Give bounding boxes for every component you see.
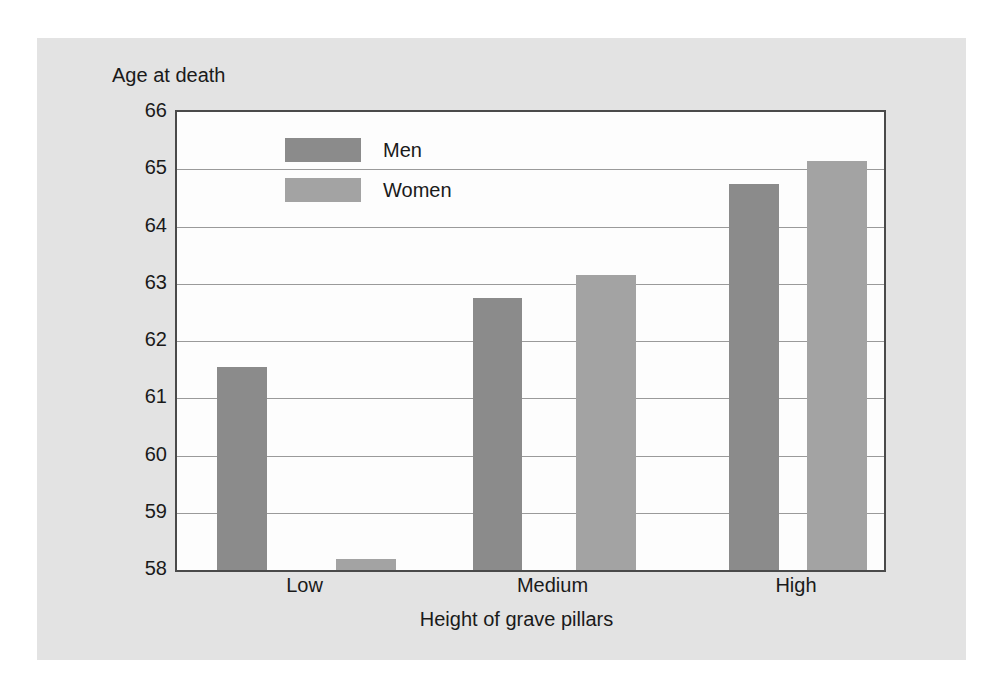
x-axis-title-text: Height of grave pillars: [420, 608, 613, 630]
y-axis-tick-label: 59: [127, 499, 167, 522]
x-axis-tick-labels: LowMediumHigh: [175, 574, 886, 604]
y-axis-tick-label: 62: [127, 328, 167, 351]
x-axis-tick-label-low: Low: [286, 574, 323, 597]
bar-women-high: [807, 161, 867, 570]
legend-item-men: Men: [285, 130, 452, 170]
y-axis-tick-label: 58: [127, 557, 167, 580]
bar-men-low: [217, 367, 267, 570]
y-axis-tick-label: 61: [127, 385, 167, 408]
legend-swatch-women: [285, 178, 361, 202]
legend-label-men: Men: [383, 139, 422, 162]
y-axis-title: Age at death: [112, 64, 225, 87]
legend-label-women: Women: [383, 179, 452, 202]
chart-legend: Men Women: [285, 130, 452, 210]
chart-figure: Age at death 666564636261605958 Men Wome…: [37, 38, 966, 660]
legend-item-women: Women: [285, 170, 452, 210]
y-axis-tick-label: 60: [127, 442, 167, 465]
bar-men-medium: [473, 298, 522, 570]
y-axis-tick-label: 65: [127, 156, 167, 179]
y-axis-tick-label: 63: [127, 270, 167, 293]
bar-women-low: [336, 559, 396, 570]
gridline: [177, 169, 884, 170]
y-axis-tick-label: 64: [127, 213, 167, 236]
x-axis-tick-label-high: High: [775, 574, 816, 597]
legend-swatch-men: [285, 138, 361, 162]
y-axis-tick-label: 66: [127, 99, 167, 122]
bar-men-high: [729, 184, 779, 570]
x-axis-title: Height of grave pillars: [37, 608, 966, 631]
bar-women-medium: [576, 275, 636, 570]
y-axis-tick-labels: 666564636261605958: [115, 110, 167, 568]
plot-area: Men Women: [175, 110, 886, 572]
x-axis-tick-label-medium: Medium: [517, 574, 588, 597]
